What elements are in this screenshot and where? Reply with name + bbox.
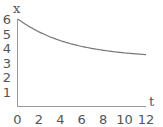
x-axis-label: t [149, 94, 155, 109]
y-tick-label: 1 [3, 85, 11, 100]
y-tick-label: 3 [3, 56, 11, 71]
chart: x t 024681012 123456 [0, 0, 163, 127]
x-tick-label: 0 [13, 112, 21, 127]
y-axis-label: x [13, 1, 21, 16]
y-tick-label: 2 [3, 70, 11, 85]
x-tick-label: 10 [116, 112, 133, 127]
y-tick-label: 5 [3, 27, 11, 42]
x-tick-label: 2 [35, 112, 43, 127]
x-tick-label: 12 [138, 112, 155, 127]
y-tick-label: 4 [3, 41, 11, 56]
y-tick-label: 6 [3, 12, 11, 27]
x-tick-label: 8 [99, 112, 107, 127]
series-line [18, 19, 147, 55]
x-tick-label: 6 [78, 112, 86, 127]
x-tick-label: 4 [56, 112, 64, 127]
